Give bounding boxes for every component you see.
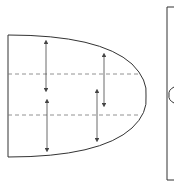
diagram-canvas xyxy=(0,0,174,185)
right-panel-arc xyxy=(169,87,174,103)
bullet-profile-outline xyxy=(8,35,146,157)
right-panel-border xyxy=(167,7,174,180)
